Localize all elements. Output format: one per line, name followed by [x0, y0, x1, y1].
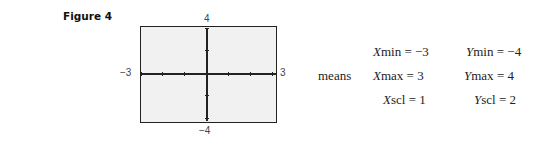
xscl-setting: Xscl = 1: [383, 92, 426, 108]
yscl-setting: Yscl = 2: [474, 92, 516, 108]
figure-label: Figure 4: [63, 10, 112, 22]
x-tick: [184, 72, 185, 76]
x-tick: [141, 72, 142, 76]
x-min-label: −3: [120, 67, 131, 78]
xmax-setting: Xmax = 3: [373, 68, 424, 84]
y-tick: [205, 118, 209, 119]
ymax-setting: Ymax = 4: [464, 68, 514, 84]
x-max-label: 3: [280, 67, 286, 78]
y-tick: [205, 28, 209, 29]
graphing-window: [140, 26, 277, 123]
xmin-setting: Xmin = −3: [373, 44, 429, 60]
y-max-label: 4: [204, 13, 210, 24]
y-tick: [205, 50, 209, 51]
means-label: means: [318, 68, 351, 84]
x-tick: [162, 72, 163, 76]
x-tick: [250, 72, 251, 76]
x-tick: [272, 72, 273, 76]
ymin-setting: Ymin = −4: [466, 44, 521, 60]
y-tick: [205, 95, 209, 96]
y-min-label: −4: [199, 125, 210, 136]
x-tick: [228, 72, 229, 76]
y-axis: [206, 28, 208, 121]
